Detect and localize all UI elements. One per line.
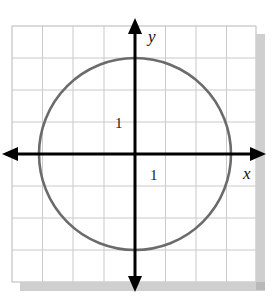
x-axis-unit-tick-label: 1 bbox=[150, 167, 158, 183]
y-axis-label: y bbox=[146, 27, 156, 46]
x-axis-label: x bbox=[242, 164, 251, 183]
shadow-bottom bbox=[20, 282, 265, 291]
shadow-right bbox=[256, 34, 265, 290]
coordinate-plane-graphic: y x 1 1 bbox=[0, 0, 278, 303]
y-axis-unit-tick-label: 1 bbox=[115, 115, 123, 131]
x-axis-arrow-left bbox=[2, 147, 18, 161]
figure-container: y x 1 1 bbox=[0, 0, 278, 303]
